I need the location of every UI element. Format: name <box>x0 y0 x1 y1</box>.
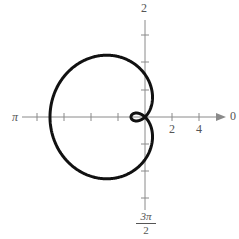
label-bottom-fraction: 3π 2 <box>136 211 156 236</box>
label-tick-4: 4 <box>196 123 202 135</box>
label-zero: 0 <box>230 110 236 122</box>
label-bottom-denominator: 2 <box>136 224 156 236</box>
label-top: 2 <box>141 2 147 14</box>
axis-arrow-icon <box>216 113 226 121</box>
label-pi: π <box>12 111 18 123</box>
label-bottom-numerator: 3π <box>136 211 156 224</box>
label-tick-2: 2 <box>169 123 175 135</box>
polar-plot <box>0 0 239 239</box>
